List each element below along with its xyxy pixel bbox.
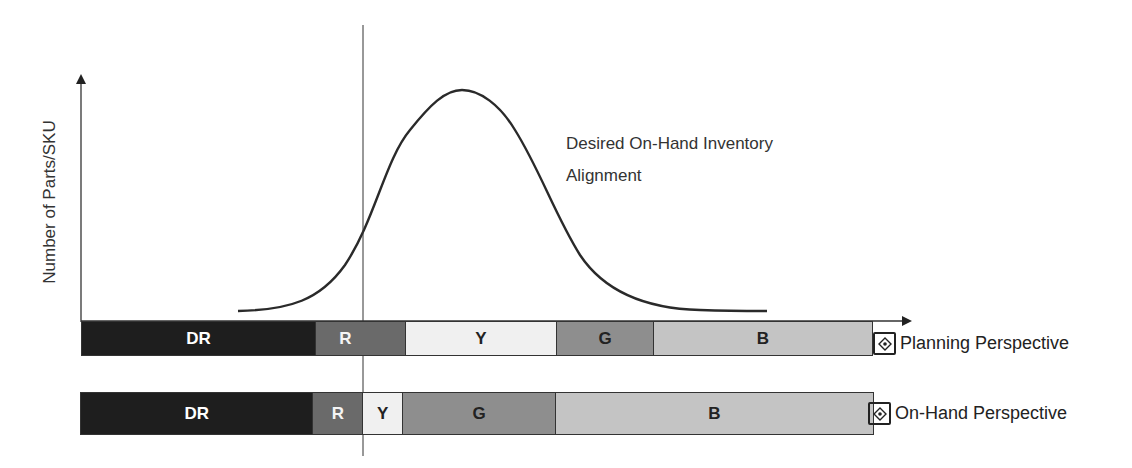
onhand-segment-r: R (313, 393, 363, 434)
planning-segment-g: G (557, 322, 654, 355)
onhand-segment-b: B (556, 393, 873, 434)
onhand-legend-label: On-Hand Perspective (895, 403, 1067, 424)
planning-legend-label: Planning Perspective (900, 333, 1069, 354)
segment-label: B (708, 404, 720, 424)
segment-label: Y (475, 329, 486, 349)
inventory-alignment-diagram: Number of Parts/SKU Desired On-Hand Inve… (0, 0, 1132, 468)
segment-label: DR (186, 329, 211, 349)
segment-label: Y (377, 404, 388, 424)
distribution-curve (238, 90, 767, 311)
segment-label: DR (184, 404, 209, 424)
curve-annotation: Desired On-Hand Inventory Alignment (566, 128, 773, 192)
planning-segment-dr: DR (82, 322, 316, 355)
diamond-in-square-icon (873, 332, 896, 355)
y-axis-label: Number of Parts/SKU (40, 120, 60, 283)
onhand-segment-dr: DR (81, 393, 313, 434)
onhand-segment-g: G (403, 393, 556, 434)
planning-legend: Planning Perspective (873, 332, 1069, 355)
segment-label: G (472, 404, 485, 424)
planning-segment-b: B (654, 322, 872, 355)
segment-label: G (598, 329, 611, 349)
planning-segment-y: Y (406, 322, 557, 355)
segment-label: R (339, 329, 351, 349)
planning-segment-r: R (316, 322, 406, 355)
planning-bar: DR R Y G B (81, 321, 873, 356)
annotation-line-2: Alignment (566, 160, 773, 192)
onhand-legend: On-Hand Perspective (868, 402, 1067, 425)
onhand-segment-y: Y (363, 393, 403, 434)
segment-label: B (757, 329, 769, 349)
onhand-bar: DR R Y G B (80, 392, 874, 435)
diamond-in-square-icon (868, 402, 891, 425)
annotation-line-1: Desired On-Hand Inventory (566, 128, 773, 160)
segment-label: R (332, 404, 344, 424)
